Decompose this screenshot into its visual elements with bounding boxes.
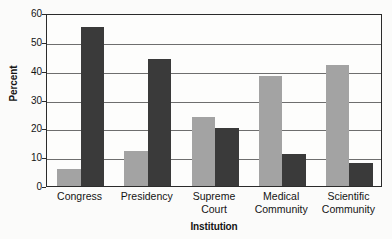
bar bbox=[148, 59, 172, 186]
bar-group bbox=[57, 15, 104, 186]
x-axis-tick-label-line: Congress bbox=[46, 190, 113, 203]
x-axis-tick-label-line: Community bbox=[248, 203, 315, 216]
bar bbox=[282, 154, 306, 186]
bar bbox=[349, 163, 373, 186]
x-axis-tick-label-line: Court bbox=[180, 203, 247, 216]
y-axis-tick-label: 40 bbox=[18, 67, 42, 77]
bar-group bbox=[326, 15, 373, 186]
y-axis-tick-mark bbox=[42, 72, 46, 73]
y-axis-tick-mark bbox=[42, 129, 46, 130]
bar bbox=[81, 27, 105, 186]
bar bbox=[124, 151, 148, 186]
y-axis-tick-mark bbox=[42, 187, 46, 188]
y-axis-tick-label: 30 bbox=[18, 96, 42, 106]
bar bbox=[192, 117, 216, 186]
x-axis-tick-labels: CongressPresidencySupremeCourtMedicalCom… bbox=[46, 190, 382, 220]
bar bbox=[259, 76, 283, 186]
x-axis-tick-label: SupremeCourt bbox=[180, 190, 247, 215]
y-axis-tick-mark bbox=[42, 158, 46, 159]
y-axis-tick-mark bbox=[42, 14, 46, 15]
bar-group bbox=[124, 15, 171, 186]
y-axis-tick-label: 10 bbox=[18, 153, 42, 163]
x-axis-tick-label: Congress bbox=[46, 190, 113, 203]
x-axis-tick-label-line: Presidency bbox=[113, 190, 180, 203]
x-axis-tick-label-line: Supreme bbox=[180, 190, 247, 203]
bar bbox=[326, 65, 350, 186]
x-axis-tick-label-line: Community bbox=[315, 203, 382, 216]
bar bbox=[57, 169, 81, 186]
x-axis-tick-label-line: Medical bbox=[248, 190, 315, 203]
bars-layer bbox=[47, 15, 381, 186]
y-axis-tick-label: 20 bbox=[18, 124, 42, 134]
bar-group bbox=[192, 15, 239, 186]
bar-chart-figure: Percent 0102030405060 CongressPresidency… bbox=[0, 0, 392, 239]
bar bbox=[215, 128, 239, 186]
y-axis-tick-label: 60 bbox=[18, 9, 42, 19]
y-axis-title: Percent bbox=[8, 49, 19, 119]
y-axis-tick-mark bbox=[42, 101, 46, 102]
x-axis-tick-label: Presidency bbox=[113, 190, 180, 203]
x-axis-tick-label-line: Scientific bbox=[315, 190, 382, 203]
plot-area bbox=[46, 14, 382, 187]
bar-group bbox=[259, 15, 306, 186]
y-axis-tick-label: 0 bbox=[18, 182, 42, 192]
x-axis-tick-label: MedicalCommunity bbox=[248, 190, 315, 215]
y-axis-tick-mark bbox=[42, 43, 46, 44]
y-axis-tick-label: 50 bbox=[18, 38, 42, 48]
y-axis-tick-labels: 0102030405060 bbox=[18, 14, 42, 187]
x-axis-tick-label: ScientificCommunity bbox=[315, 190, 382, 215]
x-axis-title: Institution bbox=[46, 221, 382, 232]
